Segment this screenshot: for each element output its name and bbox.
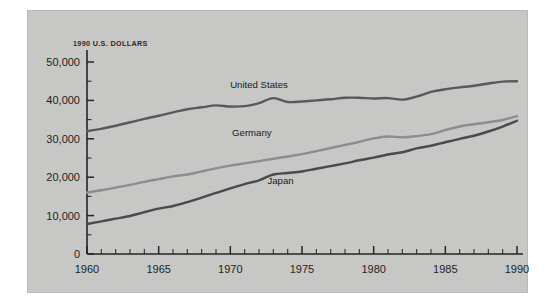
data-series-lines — [87, 81, 517, 224]
series-label-united-states: United States — [230, 79, 288, 90]
chart-screenshot: 1990 U.S. DOLLARS 010,00020,00030,00040,… — [0, 0, 555, 303]
y-axis-tick-labels: 010,00020,00030,00040,00050,000 — [46, 56, 80, 260]
x-tick-label: 1975 — [290, 263, 314, 275]
series-line-united-states — [87, 81, 517, 131]
series-line-japan — [87, 121, 517, 224]
y-tick-label: 40,000 — [46, 94, 80, 106]
y-tick-label: 30,000 — [46, 133, 80, 145]
x-tick-label: 1965 — [146, 263, 170, 275]
x-tick-label: 1980 — [361, 263, 385, 275]
line-chart-plot: 010,00020,00030,00040,00050,000 19601965… — [28, 11, 529, 294]
y-tick-label: 20,000 — [46, 171, 80, 183]
x-tick-label: 1985 — [433, 263, 457, 275]
x-tick-label: 1960 — [75, 263, 99, 275]
x-tick-label: 1990 — [505, 263, 529, 275]
y-tick-label: 0 — [74, 248, 80, 260]
axis-tick-marks — [87, 62, 517, 254]
axis-lines — [87, 50, 523, 254]
series-inline-labels: United StatesGermanyJapan — [230, 79, 293, 186]
series-line-germany — [87, 116, 517, 192]
x-tick-label: 1970 — [218, 263, 242, 275]
series-label-germany: Germany — [232, 127, 272, 138]
x-axis-tick-labels: 1960196519701975198019851990 — [75, 263, 529, 275]
series-label-japan: Japan — [267, 175, 293, 186]
y-tick-label: 50,000 — [46, 56, 80, 68]
chart-panel: 1990 U.S. DOLLARS 010,00020,00030,00040,… — [27, 10, 528, 293]
y-tick-label: 10,000 — [46, 210, 80, 222]
